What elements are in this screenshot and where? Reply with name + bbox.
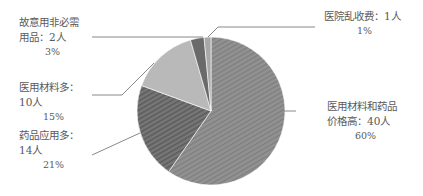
label-s3-pct: 3% xyxy=(19,45,79,59)
pie-slices xyxy=(137,37,285,185)
leader-line-s4 xyxy=(208,27,315,37)
label-s3-line2: 用品：2人 xyxy=(19,31,66,43)
label-s0-pct: 60% xyxy=(327,129,397,143)
label-s1: 药品应用多： 14人 21% xyxy=(19,128,79,172)
label-s2-pct: 15% xyxy=(19,110,79,124)
label-s0: 医用材料和药品 价格高：40人 60% xyxy=(327,99,397,143)
label-s0-line1: 医用材料和药品 xyxy=(327,100,397,112)
label-s0-line2: 价格高：40人 xyxy=(327,115,390,127)
label-s2-line1: 医用材料多： xyxy=(19,81,79,93)
leader-line-s1 xyxy=(92,133,140,155)
label-s3-line1: 故意用非必需 xyxy=(19,16,79,28)
label-s4-pct: 1% xyxy=(324,24,401,38)
label-s1-pct: 21% xyxy=(19,158,79,172)
label-s4: 医院乱收费：1人 1% xyxy=(324,9,401,38)
label-s4-line1: 医院乱收费：1人 xyxy=(324,10,401,22)
label-s2: 医用材料多： 10人 15% xyxy=(19,80,79,124)
label-s2-line2: 10人 xyxy=(19,96,42,108)
label-s3: 故意用非必需 用品：2人 3% xyxy=(19,15,79,59)
label-s1-line2: 14人 xyxy=(19,144,42,156)
label-s1-line1: 药品应用多： xyxy=(19,129,79,141)
